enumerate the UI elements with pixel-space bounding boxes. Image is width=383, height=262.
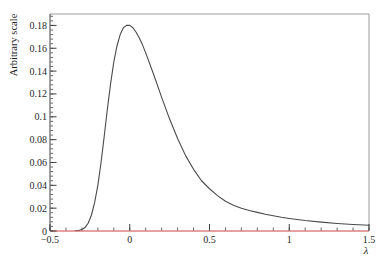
x-tick-label: 1.5	[363, 234, 376, 245]
y-tick-label: 0.18	[30, 20, 48, 31]
y-tick-label: 0.14	[30, 66, 48, 77]
curve-layer	[76, 25, 369, 230]
y-tick-label: 0.08	[30, 134, 48, 145]
x-tick-label: 0.5	[203, 234, 216, 245]
x-tick-label: 0	[127, 234, 132, 245]
landau-distribution-chart: 00.020.040.060.080.10.120.140.160.18−0.5…	[0, 0, 383, 262]
y-tick-label: 0.06	[30, 157, 48, 168]
y-axis-label: Arbitrary scale	[8, 13, 19, 76]
chart-figure: 00.020.040.060.080.10.120.140.160.18−0.5…	[0, 0, 383, 262]
y-tick-label: 0.16	[30, 43, 48, 54]
x-tick-label: 1	[287, 234, 292, 245]
x-axis-label: λ	[363, 245, 369, 256]
distribution-curve	[76, 25, 369, 230]
x-tick-label: −0.5	[41, 234, 59, 245]
y-tick-label: 0.04	[30, 180, 48, 191]
y-tick-label: 0.02	[30, 203, 48, 214]
y-tick-label: 0.1	[35, 111, 48, 122]
tick-layer	[50, 16, 369, 231]
tick-label-layer: 00.020.040.060.080.10.120.140.160.18−0.5…	[30, 20, 376, 245]
y-tick-label: 0.12	[30, 88, 48, 99]
plot-frame	[50, 14, 369, 231]
